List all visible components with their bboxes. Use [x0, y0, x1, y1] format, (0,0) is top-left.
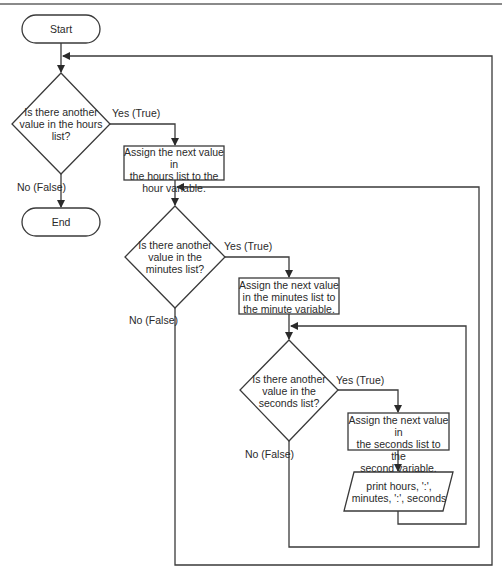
seconds-no-label: No (False) [245, 448, 294, 460]
assign-hour-text: Assign the next value in the hours list … [124, 146, 224, 194]
assign-second-text: Assign the next value in the seconds lis… [348, 414, 449, 474]
minutes-decision-text: Is there another value in the minutes li… [132, 239, 218, 275]
minutes-no-label: No (False) [129, 314, 178, 326]
end-label: End [22, 216, 100, 228]
assign-minute-text: Assign the next value in the minutes lis… [239, 279, 339, 315]
start-label: Start [22, 23, 100, 35]
print-output-text: print hours, ':', minutes, ':', seconds [349, 480, 449, 504]
hours-no-label: No (False) [17, 181, 66, 193]
hours-yes-label: Yes (True) [112, 107, 160, 119]
minutes-yes-label: Yes (True) [224, 240, 272, 252]
arrow-minutes-yes [225, 257, 289, 277]
arrow-seconds-yes [338, 390, 398, 412]
arrow-hours-yes [110, 124, 175, 145]
hours-decision-text: Is there another value in the hours list… [18, 106, 104, 142]
seconds-decision-text: Is there another value in the seconds li… [246, 373, 332, 409]
seconds-yes-label: Yes (True) [336, 374, 384, 386]
